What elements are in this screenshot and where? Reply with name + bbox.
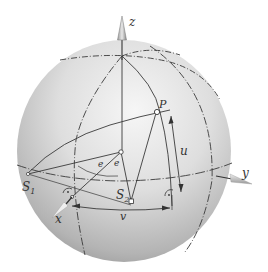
point-s1-marker: [26, 172, 29, 175]
y-axis-label: y: [241, 166, 249, 180]
point-s2-marker: [129, 199, 134, 204]
angle-mark-2: e: [114, 158, 119, 168]
x-axis-label: x: [55, 212, 62, 226]
u-dimension-label: u: [180, 144, 188, 158]
apex-marker: [119, 150, 123, 154]
angle-mark-1: e: [98, 159, 103, 169]
sphere-diagram: z e: [0, 0, 268, 272]
z-axis-label: z: [128, 15, 136, 29]
right-angle-dot-x: [67, 191, 69, 193]
v-dimension-label: v: [120, 210, 127, 223]
point-p-label: P: [158, 98, 167, 111]
sphere: [17, 40, 231, 262]
right-angle-dot-right: [168, 194, 170, 196]
